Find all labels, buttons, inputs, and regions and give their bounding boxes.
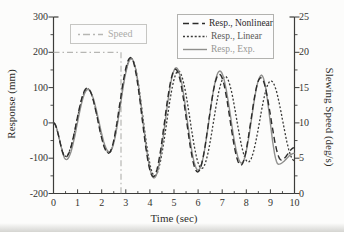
y-left-tick-label-300: 300 bbox=[12, 11, 48, 23]
slewing-response-chart: Response (mm) Slewing Speed (deg/s) Time… bbox=[0, 0, 344, 232]
legend-item-linear: Resp., Linear bbox=[183, 32, 273, 42]
x-tick-label-2: 2 bbox=[93, 197, 111, 209]
y-right-tick-label-15: 15 bbox=[299, 82, 325, 94]
legend-label-speed: Speed bbox=[108, 29, 132, 39]
curve-nonlinear bbox=[54, 58, 295, 177]
legend-item-nonlinear: Resp., Nonlinear bbox=[183, 19, 273, 29]
y-left-tick-label-200: 200 bbox=[12, 46, 48, 58]
legend-item-exp: Resp., Exp. bbox=[183, 45, 273, 55]
x-tick-label-5: 5 bbox=[165, 197, 183, 209]
y-right-tick-label-25: 25 bbox=[299, 11, 325, 23]
legend-label-exp: Resp., Exp. bbox=[211, 45, 255, 55]
legend-label-nonlinear: Resp., Nonlinear bbox=[209, 19, 273, 29]
linear-line-sample bbox=[183, 34, 207, 39]
x-tick-label-10: 10 bbox=[286, 197, 304, 209]
y-left-tick-label--200: -200 bbox=[12, 188, 48, 200]
legend-item-speed: Speed bbox=[77, 29, 146, 39]
x-tick-label-0: 0 bbox=[45, 197, 63, 209]
curve-linear bbox=[54, 58, 295, 176]
legend-main: Resp., Nonlinear Resp., Linear Resp., Ex… bbox=[177, 14, 274, 59]
speed-line-sample bbox=[77, 32, 104, 37]
y-right-tick-label-5: 5 bbox=[299, 152, 325, 164]
legend-label-linear: Resp., Linear bbox=[211, 32, 262, 42]
x-tick-label-3: 3 bbox=[117, 197, 135, 209]
y-left-tick-label-0: 0 bbox=[12, 117, 48, 129]
nonlinear-line-sample bbox=[183, 21, 205, 26]
exp-line-sample bbox=[183, 47, 207, 52]
x-tick-label-8: 8 bbox=[237, 197, 255, 209]
y-left-tick-label-100: 100 bbox=[12, 82, 48, 94]
x-axis-label: Time (sec) bbox=[151, 212, 198, 224]
y-right-tick-label-20: 20 bbox=[299, 46, 325, 58]
x-tick-label-7: 7 bbox=[213, 197, 231, 209]
legend-speed: Speed bbox=[70, 24, 147, 44]
x-tick-label-1: 1 bbox=[69, 197, 87, 209]
x-tick-label-6: 6 bbox=[189, 197, 207, 209]
y-left-tick-label--100: -100 bbox=[12, 152, 48, 164]
x-tick-label-4: 4 bbox=[141, 197, 159, 209]
y-axis-label-right: Slewing Speed (deg/s) bbox=[324, 68, 336, 167]
y-right-tick-label-10: 10 bbox=[299, 117, 325, 129]
curve-speed bbox=[54, 52, 122, 193]
curve-exp bbox=[54, 59, 295, 178]
x-tick-label-9: 9 bbox=[261, 197, 279, 209]
